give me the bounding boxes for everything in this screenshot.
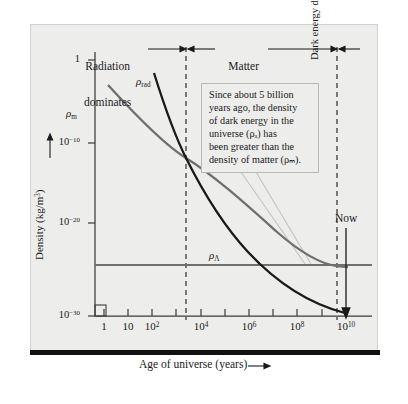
callout-line: Since about 5 billion (209, 89, 312, 102)
x-axis-title: Age of universe (years) (139, 358, 247, 370)
now-label: Now (335, 212, 357, 224)
curve-label-rho-lambda: ρΛ (209, 250, 220, 263)
x-tick-label: 1010 (329, 321, 363, 333)
y-tick-label: 10−10 (46, 136, 80, 147)
region-label-radiation-line2: dominates (84, 96, 131, 108)
x-axis-title-arrow (248, 363, 270, 368)
callout-line: years ago, the density (209, 102, 312, 115)
now-marker-arrow (342, 228, 350, 318)
curve-label-rho-rad: ρrad (136, 76, 151, 89)
y-tick-label: 10−30 (46, 309, 80, 320)
callout-line: universe (ρₐ) has (209, 128, 312, 141)
callout-line: density of matter (ρₘ). (209, 154, 312, 167)
region-label-matter-line1: Matter (220, 60, 267, 72)
x-tick-label: 106 (232, 321, 266, 333)
y-axis-title: Density (kg/m3) (34, 189, 46, 260)
x-tick-label: 108 (280, 321, 314, 333)
region-label-dark-energy: Dark energy dominates (309, 0, 320, 60)
x-tick-label: 102 (135, 321, 169, 333)
callout-line: of dark energy in the (209, 115, 312, 128)
region-label-radiation-line1: Radiation (84, 60, 131, 72)
y-tick-label: 10−20 (46, 216, 80, 227)
callout-line: been greater than the (209, 141, 312, 154)
curve-label-rho-m: ρm (66, 108, 77, 121)
y-tick-label: 1 (46, 53, 80, 64)
annotation-callout: Since about 5 billion years ago, the den… (201, 83, 319, 173)
x-tick-label: 104 (184, 321, 218, 333)
x-axis-ticks (104, 309, 346, 316)
region-label-radiation: Radiation dominates (84, 36, 131, 120)
